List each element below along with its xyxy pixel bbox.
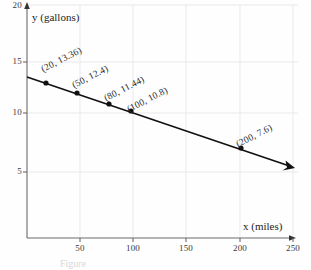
data-point (43, 80, 48, 85)
caption-ghost: Figure (60, 258, 86, 269)
x-tick-label-100: 100 (118, 243, 148, 253)
y-tick-marks (23, 62, 27, 172)
x-tick-label-150: 150 (171, 243, 201, 253)
x-tick-label-200: 200 (225, 243, 255, 253)
gridlines (27, 5, 298, 238)
y-tick-label-5: 5 (0, 166, 22, 176)
y-tick-label-20: 20 (0, 0, 22, 10)
y-tick-label-15: 15 (0, 56, 22, 66)
x-tick-label-250: 250 (278, 243, 308, 253)
y-tick-label-10: 10 (0, 107, 22, 117)
x-axis-title: x (miles) (243, 220, 282, 232)
x-tick-marks (80, 238, 293, 242)
y-axis-title: y (gallons) (32, 11, 79, 23)
chart-container: 20 15 10 5 50 100 150 200 250 y (gallons… (0, 0, 311, 270)
x-tick-label-50: 50 (65, 243, 95, 253)
data-point (74, 90, 79, 95)
